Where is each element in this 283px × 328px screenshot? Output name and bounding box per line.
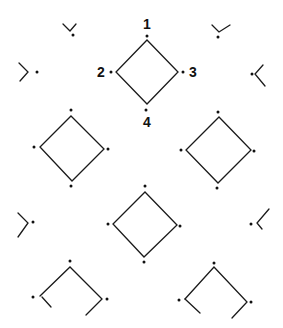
diamond-shapes-layer xyxy=(40,40,251,257)
lattice-dot xyxy=(182,71,185,74)
diamond-middle-right xyxy=(186,117,251,183)
lattice-dot xyxy=(72,34,75,37)
partial-bottom-left-stub xyxy=(42,297,51,307)
diamond-lower-center xyxy=(113,192,177,257)
lattice-dot xyxy=(70,185,73,188)
vertex-label-4: 4 xyxy=(143,114,151,130)
lattice-dot xyxy=(145,109,148,112)
diagram-svg: 1 2 3 4 xyxy=(0,0,283,328)
lattice-dot xyxy=(32,296,35,299)
lattice-dot xyxy=(217,111,220,114)
lattice-dot xyxy=(216,187,219,190)
lattice-dot xyxy=(107,223,110,226)
lattice-dot xyxy=(144,185,147,188)
dot-diamond-diagram: 1 2 3 4 xyxy=(0,0,283,328)
diamond-top-center xyxy=(116,40,178,104)
lattice-dot xyxy=(36,71,39,74)
lattice-dot xyxy=(107,148,110,151)
lattice-dot xyxy=(251,73,254,76)
fragment-top-right-v xyxy=(212,25,230,32)
lattice-dot xyxy=(179,225,182,228)
partial-bottom-right-stub xyxy=(185,299,200,313)
lattice-dot xyxy=(33,146,36,149)
lattice-dot xyxy=(213,262,216,265)
partial-bottom-left-roof xyxy=(40,267,102,315)
dots-layer xyxy=(32,34,256,304)
lattice-dot xyxy=(253,150,256,153)
fragment-top-left-v xyxy=(63,24,76,31)
diamond-middle-left xyxy=(40,116,104,181)
vertex-label-2: 2 xyxy=(97,64,105,80)
partial-bottom-right-roof xyxy=(185,267,247,318)
lattice-dot xyxy=(32,221,35,224)
fragment-lines-layer xyxy=(18,24,269,318)
fragment-right-upper-chevron xyxy=(255,65,265,86)
fragment-left-lower-chevron xyxy=(18,213,28,237)
fragment-right-lower-chevron xyxy=(257,209,269,229)
vertex-label-1: 1 xyxy=(143,16,151,32)
lattice-dot xyxy=(250,301,253,304)
vertex-label-3: 3 xyxy=(189,64,197,80)
lattice-dot xyxy=(106,298,109,301)
lattice-dot xyxy=(250,223,253,226)
lattice-dot xyxy=(180,149,183,152)
lattice-dot xyxy=(143,261,146,264)
lattice-dot xyxy=(70,109,73,112)
lattice-dot xyxy=(110,71,113,74)
lattice-dot xyxy=(178,299,181,302)
lattice-dot xyxy=(217,36,220,39)
lattice-dot xyxy=(69,260,72,263)
lattice-dot xyxy=(146,35,149,38)
fragment-left-upper-chevron xyxy=(19,63,28,81)
